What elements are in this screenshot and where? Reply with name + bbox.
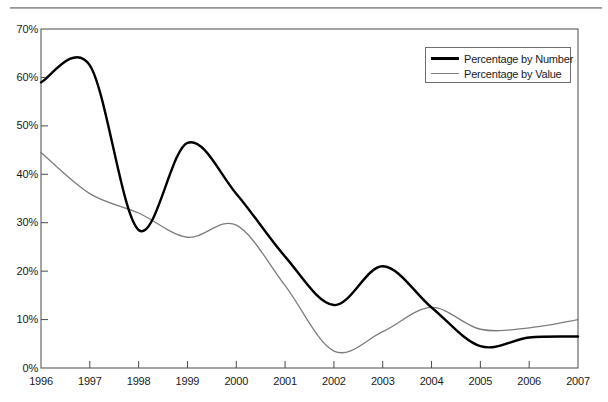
x-axis-tick-label: 1996 — [16, 375, 66, 387]
x-axis-tick-label: 2003 — [358, 375, 408, 387]
x-axis-tick-label: 2001 — [260, 375, 310, 387]
x-axis-tick-label: 2002 — [309, 375, 359, 387]
legend-item-percentage-by-number: Percentage by Number — [431, 51, 565, 66]
x-axis-tick-label: 2007 — [553, 375, 603, 387]
legend-item-label: Percentage by Value — [464, 68, 562, 80]
x-axis-tick-label: 2000 — [211, 375, 261, 387]
x-axis-tick-label: 2004 — [407, 375, 457, 387]
legend-line-swatch-icon — [431, 69, 459, 79]
line-chart: 70%60%50%40%30%20%10%0% 1996199719981999… — [0, 0, 608, 402]
chart-page: 70%60%50%40%30%20%10%0% 1996199719981999… — [0, 0, 608, 402]
legend-item-percentage-by-value: Percentage by Value — [431, 66, 565, 81]
x-axis-tick-label: 1999 — [162, 375, 212, 387]
x-axis-tick-label: 2006 — [504, 375, 554, 387]
x-axis-tick-label: 1998 — [114, 375, 164, 387]
x-axis-tick-label: 2005 — [455, 375, 505, 387]
legend-line-swatch-icon — [431, 54, 459, 64]
x-axis-tick-label: 1997 — [65, 375, 115, 387]
chart-legend: Percentage by Number Percentage by Value — [425, 47, 571, 83]
legend-item-label: Percentage by Number — [464, 53, 573, 65]
